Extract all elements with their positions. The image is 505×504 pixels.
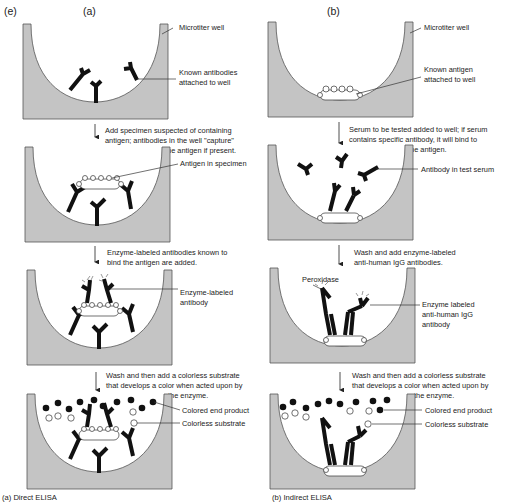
step-b2-line2: contains specific antibody, it will bind… (349, 135, 477, 144)
step-a3-line2: bind the antigen are added. (107, 258, 197, 267)
well-a2 (25, 147, 170, 242)
step-b3-line1: Wash and add enzyme-labeled (354, 248, 456, 257)
well-a3 (27, 270, 172, 365)
label-colored-end-product-a: Colored end product (182, 406, 249, 415)
step-b2-line3: the antigen. (408, 145, 447, 154)
caption-indirect-elisa: (b) Indirect ELISA (272, 493, 333, 502)
column-header-a: (a) (83, 5, 96, 17)
label-enzyme-labeled-b-line2: anti-human IgG (422, 310, 473, 319)
well-a1 (23, 24, 168, 119)
step-a4-line2: that develops a color when acted upon by (106, 381, 243, 390)
label-antigen-in-specimen: Antigen in specimen (180, 159, 247, 168)
well-b4 (270, 394, 415, 489)
label-colored-end-product-b: Colored end product (425, 406, 492, 415)
label-peroxidase: Peroxidase (302, 275, 339, 284)
step-a4-line3: the enzyme. (168, 391, 208, 400)
label-microtiter-well-a: Microtiter well (179, 23, 225, 32)
step-a2-line1: Add specimen suspected of containing (105, 126, 232, 135)
caption-direct-elisa: (a) Direct ELISA (2, 493, 58, 502)
panel-letter: (e) (4, 5, 17, 17)
step-a2-line3: the antigen if present. (165, 146, 236, 155)
label-antibody-in-test-serum: Antibody in test serum (421, 165, 494, 174)
label-colorless-substrate-b: Colorless substrate (425, 420, 488, 429)
label-colorless-substrate-a: Colorless substrate (182, 419, 245, 428)
step-b4-line3: the enzyme. (414, 391, 454, 400)
step-a4-line1: Wash and then add a colorless substrate (106, 371, 240, 380)
step-b2-line1: Serum to be tested added to well; if ser… (349, 125, 487, 134)
elisa-diagram: (e) (a) (b) Microtiter well Known antibo… (0, 0, 505, 504)
step-a3-line1: Enzyme-labeled antibodies known to (107, 248, 227, 257)
label-enzyme-labeled-a-line1: Enzyme-labeled (180, 288, 233, 297)
well-b3 (270, 268, 415, 363)
label-enzyme-labeled-b-line3: antibody (422, 320, 450, 329)
step-b3-line2: anti-human IgG antibodies. (354, 258, 443, 267)
label-enzyme-labeled-b-line1: Enzyme labeled (422, 300, 475, 309)
column-header-b: (b) (327, 5, 340, 17)
label-attached-to-well-b: attached to well (424, 75, 476, 84)
label-known-antigen: Known antigen (424, 65, 473, 74)
well-b1 (268, 22, 413, 117)
step-b4-line2: that develops a color when acted upon by (352, 381, 489, 390)
step-a2-line2: antigen; antibodies in the well "capture… (105, 136, 234, 145)
label-attached-to-well-a: attached to well (179, 78, 231, 87)
well-a4 (27, 394, 172, 489)
label-microtiter-well-b: Microtiter well (424, 23, 470, 32)
well-b2 (268, 145, 413, 240)
label-enzyme-labeled-a-line2: antibody (180, 298, 208, 307)
step-b4-line1: Wash and then add a colorless substrate (352, 371, 486, 380)
label-known-antibodies: Known antibodies (179, 68, 238, 77)
